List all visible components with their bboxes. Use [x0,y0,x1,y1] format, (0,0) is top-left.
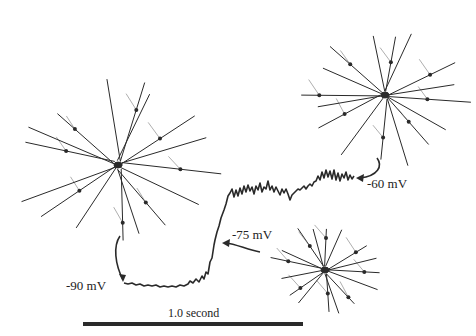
neuron-bottom-right [271,225,379,313]
dendrite [76,168,115,227]
axon-terminal [299,232,310,246]
axon-terminal [148,123,160,139]
dendrite [319,95,380,128]
dendrite [373,36,384,91]
synapse-dot [362,270,366,274]
dendrite [330,47,382,93]
synapse-dot [73,127,77,131]
axon-terminal [336,99,344,114]
axon-terminal [317,281,328,294]
axon-terminal [315,225,326,238]
dendrite [118,95,150,161]
arrowhead-minus90 [119,274,126,282]
synapse-dot [346,295,350,299]
dendrite [302,95,381,96]
axon-terminal [71,177,80,191]
synapse-dot [317,93,321,97]
axon-terminal [398,109,409,122]
dendrite [323,68,381,93]
synapse-dot [178,167,182,171]
soma [114,162,122,168]
dendrite [389,97,471,103]
synapse-dot [354,250,358,254]
synapse-dot [324,236,328,240]
axon-terminal [126,94,136,110]
synapse-dot [425,97,429,101]
neuron-top-right [302,34,471,165]
dendrite [122,116,194,163]
synapse-dot [389,60,393,64]
dendrite [325,229,327,266]
synapse-dot [121,221,125,225]
dendrite [388,97,445,129]
soma [381,92,389,98]
synapse-dot [381,136,385,140]
axon-terminal [380,48,391,62]
neuron-large-left [22,80,221,241]
synapse-dot [348,62,352,66]
dendrite [341,98,383,154]
label-minus-90-mv: -90 mV [66,278,106,294]
arrow-minus90 [116,236,123,280]
axon-terminal [137,188,146,202]
dendrite [58,114,114,163]
arrow-minus75 [226,243,260,252]
label-minus-60-mv: -60 mV [367,176,407,192]
dendrite [329,270,379,273]
axon-terminal [114,208,123,223]
dendrite [22,168,115,202]
scale-bar [83,322,303,326]
label-minus-75-mv: -75 mV [232,227,272,243]
synapse-dot [407,120,411,124]
dendrite [121,168,198,205]
dendrite [271,258,321,269]
arrowhead-minus60 [356,174,364,182]
synapse-dot [326,292,330,296]
synapse-dot [134,108,138,112]
synapse-dot [77,189,81,193]
dendrite [120,83,144,161]
dendrite [329,271,377,289]
axon-terminal [309,80,319,95]
synapse-dot [308,244,312,248]
synapse-dot [286,259,290,263]
dendrite [313,229,323,266]
synapse-dot [158,137,162,141]
axon-terminal [169,157,181,170]
dendrite [381,99,387,159]
dendrite [122,138,206,163]
dendrite [123,163,221,174]
dendrite [118,169,139,233]
scale-bar-label: 1.0 second [168,306,219,321]
soma [321,267,329,273]
dendrite [121,169,123,240]
axon-terminal [373,126,383,138]
axon-terminal [420,60,431,75]
dendrite [318,96,381,107]
dendrite [107,80,120,161]
synapse-dot [64,149,68,153]
axon-terminal [346,238,356,253]
synapse-dot [298,286,302,290]
synapse-dot [343,112,347,116]
synapse-dot [144,200,148,204]
synapse-dot [428,73,432,77]
dendrite [326,230,342,266]
arrowhead-minus75 [222,239,230,247]
dendrite [118,170,165,225]
